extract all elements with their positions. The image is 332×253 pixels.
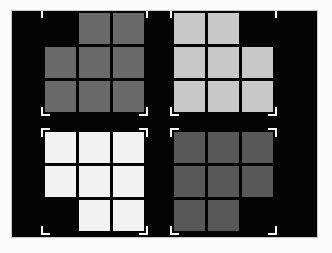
grid-cell (79, 81, 110, 112)
grid-cell (113, 47, 144, 78)
grid-cell (79, 13, 110, 44)
black-display-field (11, 10, 318, 238)
corner-bracket-bl-icon (41, 226, 50, 235)
grid-cell (242, 47, 273, 78)
grid-cell (113, 200, 144, 231)
grid-cell (174, 13, 205, 44)
grid-cell (242, 132, 273, 163)
grid-cell (174, 47, 205, 78)
grid-cell (174, 166, 205, 197)
grid-cell (113, 166, 144, 197)
grid-cell (45, 166, 76, 197)
grid-cell (174, 200, 205, 231)
grid-cell (79, 166, 110, 197)
corner-bracket-br-icon (268, 226, 277, 235)
corner-bracket-tl-icon (41, 10, 50, 18)
grid-cell (208, 81, 239, 112)
top-right-figure[interactable] (174, 13, 274, 113)
grid-cell (174, 132, 205, 163)
grid-cell (113, 132, 144, 163)
grid-cell (208, 47, 239, 78)
grid-cell (79, 200, 110, 231)
grid-cell (242, 166, 273, 197)
grid-cell (208, 132, 239, 163)
corner-bracket-tr-icon (268, 10, 277, 18)
grid-cell (45, 47, 76, 78)
grid-cell (113, 81, 144, 112)
grid-cell (242, 81, 273, 112)
grid-cell (45, 132, 76, 163)
grid-cell (174, 81, 205, 112)
grid-cell (79, 47, 110, 78)
grid-cell (79, 132, 110, 163)
grid-cell (208, 166, 239, 197)
grid-cell (113, 13, 144, 44)
grid-cell (208, 200, 239, 231)
stimulus-canvas (0, 0, 332, 253)
top-left-figure[interactable] (45, 13, 145, 113)
bottom-right-figure[interactable] (174, 132, 274, 232)
grid-cell (45, 81, 76, 112)
bottom-left-figure[interactable] (45, 132, 145, 232)
grid-cell (208, 13, 239, 44)
